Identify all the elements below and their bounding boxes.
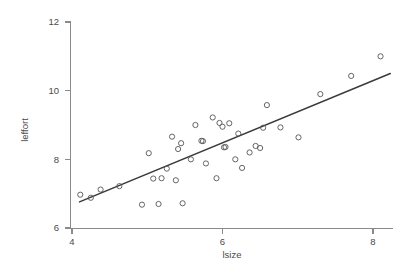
x-tick-label: 8: [370, 236, 375, 247]
scatter-plot-figure: 681012 leffort 468 lsize: [0, 0, 408, 276]
y-tick-label: 12: [48, 16, 59, 27]
x-tick-label: 6: [220, 236, 225, 247]
y-tick-label: 10: [48, 85, 59, 96]
x-axis-title: lsize: [222, 249, 241, 260]
y-tick-label: 6: [54, 222, 59, 233]
y-axis-title: leffort: [19, 118, 30, 142]
x-tick-label: 4: [69, 236, 74, 247]
plot-canvas: 681012 leffort 468 lsize: [0, 0, 408, 276]
y-tick-label: 8: [54, 154, 59, 165]
figure-background: [0, 0, 408, 276]
